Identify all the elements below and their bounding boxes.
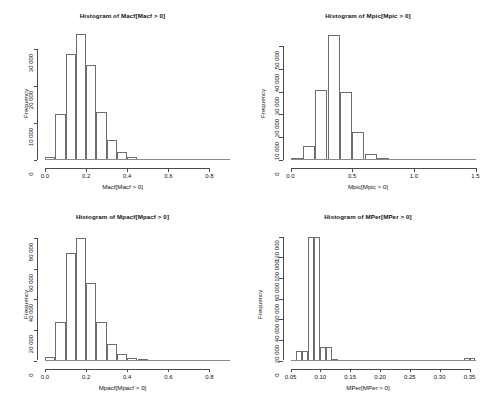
x-axis-tick-label: 0.2 [71, 374, 101, 380]
histogram-bar [55, 114, 65, 160]
y-axis-tick [34, 361, 38, 362]
histogram-bar [315, 90, 327, 160]
panel-macf: Histogram of Macf[Macf > 0] Frequency 0.… [0, 0, 245, 200]
panel-title-mpacf: Histogram of Mpacf[Mpacf > 0] [0, 213, 245, 220]
x-axis-tick-label: 0.35 [455, 374, 485, 380]
panel-mper: Histogram of MPer[MPer > 0] Frequency 0.… [246, 201, 491, 401]
x-axis-tick-label: 0.4 [112, 173, 142, 179]
y-axis-tick-label: 80 000 [28, 237, 34, 267]
histogram-bar [352, 132, 364, 161]
x-axis-tick [209, 168, 210, 172]
x-axis-tick-label: 0.05 [276, 374, 306, 380]
x-axis-tick-label: 0.5 [337, 173, 367, 179]
x-axis-tick [127, 369, 128, 373]
histogram-bar [328, 35, 340, 160]
x-axis-tick-label: 0.6 [153, 374, 183, 380]
x-axis-tick-label: 0.6 [153, 173, 183, 179]
y-axis-line [37, 238, 38, 360]
x-axis-tick-label: 0.0 [276, 173, 306, 179]
histogram-bar [107, 344, 117, 361]
x-axis-tick [410, 369, 411, 373]
y-axis-tick [34, 86, 38, 87]
x-axis-tick [45, 369, 46, 373]
x-axis-label-macf: Macf[Macf > 0] [0, 183, 245, 190]
histogram-bar [76, 238, 86, 360]
x-axis-tick-label: 0.2 [71, 173, 101, 179]
y-axis-tick [34, 330, 38, 331]
x-axis-tick-label: 0.8 [194, 374, 224, 380]
x-axis-tick [127, 168, 128, 172]
y-axis-tick [34, 160, 38, 161]
plot-area-macf: 0.00.20.40.60.8010 00020 00030 000 [45, 30, 230, 160]
y-axis-line [37, 49, 38, 160]
histogram-bar [107, 140, 117, 160]
panel-title-macf: Histogram of Macf[Macf > 0] [0, 12, 245, 19]
plot-area-mpic: 0.00.51.01.5010 00020 00030 00040 00050 … [291, 30, 476, 160]
y-axis-tick [34, 123, 38, 124]
histogram-panel-grid: Histogram of Macf[Macf > 0] Frequency 0.… [0, 0, 491, 401]
x-axis-tick [209, 369, 210, 373]
x-axis-tick [291, 369, 292, 373]
y-axis-line [283, 46, 284, 160]
x-axis-tick [476, 168, 477, 172]
histogram-bar [96, 322, 106, 360]
x-axis-label-mper: MPer[MPer > 0] [246, 384, 491, 391]
x-axis-tick-label: 0.25 [395, 374, 425, 380]
y-axis-tick-label: 10 000 [28, 122, 34, 152]
y-axis-label-mper: Frequency [256, 289, 263, 318]
y-axis-tick-label: 40 000 [28, 298, 34, 328]
x-axis-tick [350, 369, 351, 373]
x-axis-label-mpacf: Mpacf[Mpacf > 0] [0, 384, 245, 391]
y-axis-tick-label: 50 000 [274, 45, 280, 75]
x-axis-tick [414, 168, 415, 172]
y-axis-tick-label: 20 000 [28, 329, 34, 359]
histogram-bar [303, 146, 315, 160]
plot-area-mper: 0.050.100.150.200.250.300.35020 00040 00… [291, 231, 476, 361]
y-axis-label-mpic: Frequency [259, 89, 266, 118]
plot-baseline [291, 159, 476, 160]
x-axis-tick [45, 168, 46, 172]
histogram-bar [66, 54, 76, 160]
x-axis-tick [86, 168, 87, 172]
y-axis-tick [34, 238, 38, 239]
y-axis-tick-label: 20 000 [28, 85, 34, 115]
x-axis-tick [440, 369, 441, 373]
x-axis-tick [352, 168, 353, 172]
x-axis-tick-label: 0.15 [335, 374, 365, 380]
x-axis-tick-label: 0.0 [30, 374, 60, 380]
x-axis-tick [168, 168, 169, 172]
plot-area-mpacf: 0.00.20.40.60.8020 00040 00060 00080 000 [45, 231, 230, 361]
x-axis-line [291, 168, 476, 169]
y-axis-tick [34, 49, 38, 50]
panel-mpic: Histogram of Mpic[Mpic > 0] Frequency 0.… [246, 0, 491, 200]
y-axis-tick-label: 30 000 [28, 48, 34, 78]
histogram-bar [340, 92, 352, 160]
x-axis-tick [291, 168, 292, 172]
x-axis-tick-label: 0.20 [365, 374, 395, 380]
histogram-bar [55, 322, 65, 360]
x-axis-tick-label: 1.0 [399, 173, 429, 179]
x-axis-label-mpic: Mpic[Mpic > 0] [246, 183, 491, 190]
plot-baseline [45, 360, 230, 361]
x-axis-tick-label: 0.0 [30, 173, 60, 179]
histogram-bar [76, 34, 86, 160]
x-axis-tick-label: 1.5 [461, 173, 491, 179]
panel-title-mper: Histogram of MPer[MPer > 0] [246, 213, 491, 220]
y-axis-line [283, 237, 284, 361]
histogram-bar [86, 283, 96, 361]
panel-title-mpic: Histogram of Mpic[Mpic > 0] [246, 12, 491, 19]
x-axis-tick-label: 0.4 [112, 374, 142, 380]
x-axis-tick [86, 369, 87, 373]
y-axis-tick [34, 299, 38, 300]
plot-baseline [45, 159, 230, 160]
plot-baseline [291, 360, 476, 361]
y-axis-tick-label: 60 000 [28, 268, 34, 298]
y-axis-tick [34, 269, 38, 270]
x-axis-tick [380, 369, 381, 373]
x-axis-tick [168, 369, 169, 373]
panel-mpacf: Histogram of Mpacf[Mpacf > 0] Frequency … [0, 201, 245, 401]
y-axis-tick-label: 120 000 [274, 236, 280, 266]
histogram-bar [66, 253, 76, 360]
x-axis-tick [320, 369, 321, 373]
histogram-bar [86, 65, 96, 160]
